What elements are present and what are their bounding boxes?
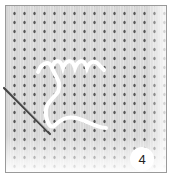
- step-number: 4: [138, 152, 145, 167]
- step-number-badge: 4: [130, 147, 154, 171]
